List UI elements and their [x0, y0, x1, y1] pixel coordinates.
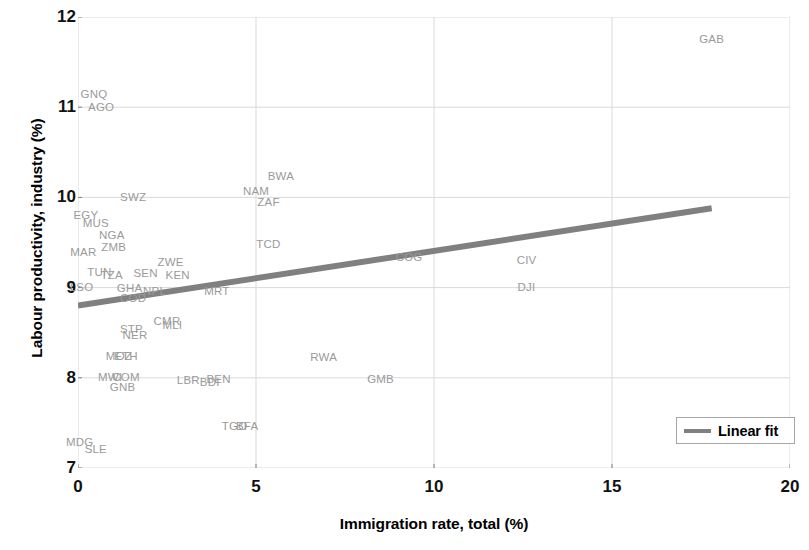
- data-point-label: NER: [123, 331, 148, 343]
- data-point-label: GMB: [367, 374, 394, 386]
- data-point-label: SEN: [134, 268, 158, 280]
- data-point-label: BWA: [268, 171, 294, 183]
- scatter-chart-figure: Labour productivity, industry (%) Immigr…: [0, 0, 809, 550]
- data-point-label: COD: [120, 294, 146, 306]
- plot-canvas: [78, 17, 790, 468]
- data-point-label: TCD: [256, 239, 280, 251]
- data-point-label: DJI: [518, 282, 536, 294]
- data-point-label: GAB: [699, 34, 724, 46]
- data-point-label: GNB: [110, 382, 136, 394]
- data-point-label: LSO: [70, 282, 94, 294]
- y-axis-tick-label: 10: [36, 188, 76, 205]
- data-point-label: ZAF: [257, 197, 279, 209]
- data-point-label: ZWE: [157, 257, 183, 269]
- data-point-label: KEN: [166, 270, 190, 282]
- x-axis-title: Immigration rate, total (%): [78, 515, 790, 533]
- data-point-label: NPL: [143, 286, 166, 298]
- legend-entry-label: Linear fit: [718, 423, 778, 439]
- data-point-label: SWZ: [120, 193, 146, 205]
- y-axis-title: Labour productivity, industry (%): [28, 0, 54, 478]
- data-point-label: ZMB: [101, 242, 126, 254]
- data-point-label: RWA: [310, 352, 337, 364]
- data-point-label: AGO: [88, 102, 114, 114]
- data-point-label: GNQ: [81, 90, 108, 102]
- data-point-label: MRT: [204, 286, 229, 298]
- data-point-label: BFA: [236, 422, 258, 434]
- data-point-label: ETH: [114, 351, 138, 363]
- data-point-label: TZA: [101, 270, 123, 282]
- y-axis-tick-label: 12: [36, 8, 76, 25]
- data-point-label: BEN: [206, 374, 230, 386]
- x-axis-tick-label: 0: [48, 478, 108, 495]
- data-point-label: COG: [396, 252, 423, 264]
- x-axis-tick-label: 5: [226, 478, 286, 495]
- plot-area: [78, 17, 790, 468]
- data-point-label: MLI: [162, 321, 182, 333]
- x-axis-tick-label: 20: [760, 478, 809, 495]
- data-point-label: SLE: [85, 444, 107, 456]
- data-point-label: CIV: [517, 256, 537, 268]
- y-axis-tick-label: 11: [36, 98, 76, 115]
- data-point-label: MAR: [70, 248, 96, 260]
- y-axis-tick-label: 7: [36, 459, 76, 476]
- y-axis-tick-label: 8: [36, 369, 76, 386]
- legend-line-swatch-icon: [684, 429, 711, 433]
- data-point-label: LBR: [177, 375, 200, 387]
- x-axis-tick-label: 15: [582, 478, 642, 495]
- x-axis-tick-label: 10: [404, 478, 464, 495]
- gridlines: [78, 17, 790, 468]
- legend: Linear fit: [676, 417, 795, 444]
